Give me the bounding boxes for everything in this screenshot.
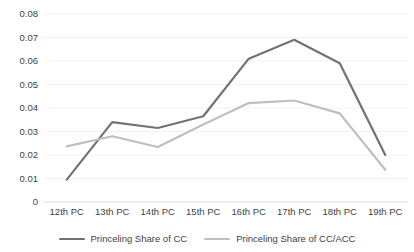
gridlines bbox=[44, 14, 408, 202]
legend-item[interactable]: Princeling Share of CC/ACC bbox=[204, 233, 355, 245]
legend-label: Princeling Share of CC bbox=[91, 233, 188, 245]
y-axis-tick-label: 0.02 bbox=[2, 150, 38, 160]
y-axis-tick-label: 0.07 bbox=[2, 33, 38, 43]
y-axis-tick-label: 0.01 bbox=[2, 174, 38, 184]
legend-line-swatch bbox=[59, 238, 85, 241]
x-axis-tick-label: 17th PC bbox=[272, 205, 318, 219]
y-axis-tick-label: 0.04 bbox=[2, 103, 38, 113]
legend-label: Princeling Share of CC/ACC bbox=[236, 233, 355, 245]
x-axis-tick-label: 19th PC bbox=[363, 205, 409, 219]
line-chart: 0.080.070.060.050.040.030.020.010 12th P… bbox=[0, 0, 414, 252]
x-axis-tick-label: 15th PC bbox=[181, 205, 227, 219]
x-axis-tick-label: 16th PC bbox=[226, 205, 272, 219]
y-axis-tick-label: 0.03 bbox=[2, 127, 38, 137]
legend-item[interactable]: Princeling Share of CC bbox=[59, 233, 188, 245]
y-axis-tick-label: 0.08 bbox=[2, 9, 38, 19]
series-line-1 bbox=[67, 100, 386, 169]
chart-legend: Princeling Share of CCPrinceling Share o… bbox=[0, 230, 414, 248]
x-axis-tick-label: 18th PC bbox=[317, 205, 363, 219]
y-axis-tick-label: 0.06 bbox=[2, 56, 38, 66]
x-axis-tick-label: 13th PC bbox=[90, 205, 136, 219]
legend-line-swatch bbox=[204, 238, 230, 241]
y-axis-tick-label: 0.05 bbox=[2, 80, 38, 90]
x-axis-tick-label: 14th PC bbox=[135, 205, 181, 219]
plot-area bbox=[44, 14, 408, 202]
x-axis: 12th PC13th PC14th PC15th PC16th PC17th … bbox=[44, 205, 408, 219]
x-axis-tick-label: 12th PC bbox=[44, 205, 90, 219]
plot-svg bbox=[44, 14, 408, 202]
y-axis-tick-label: 0 bbox=[2, 197, 38, 207]
